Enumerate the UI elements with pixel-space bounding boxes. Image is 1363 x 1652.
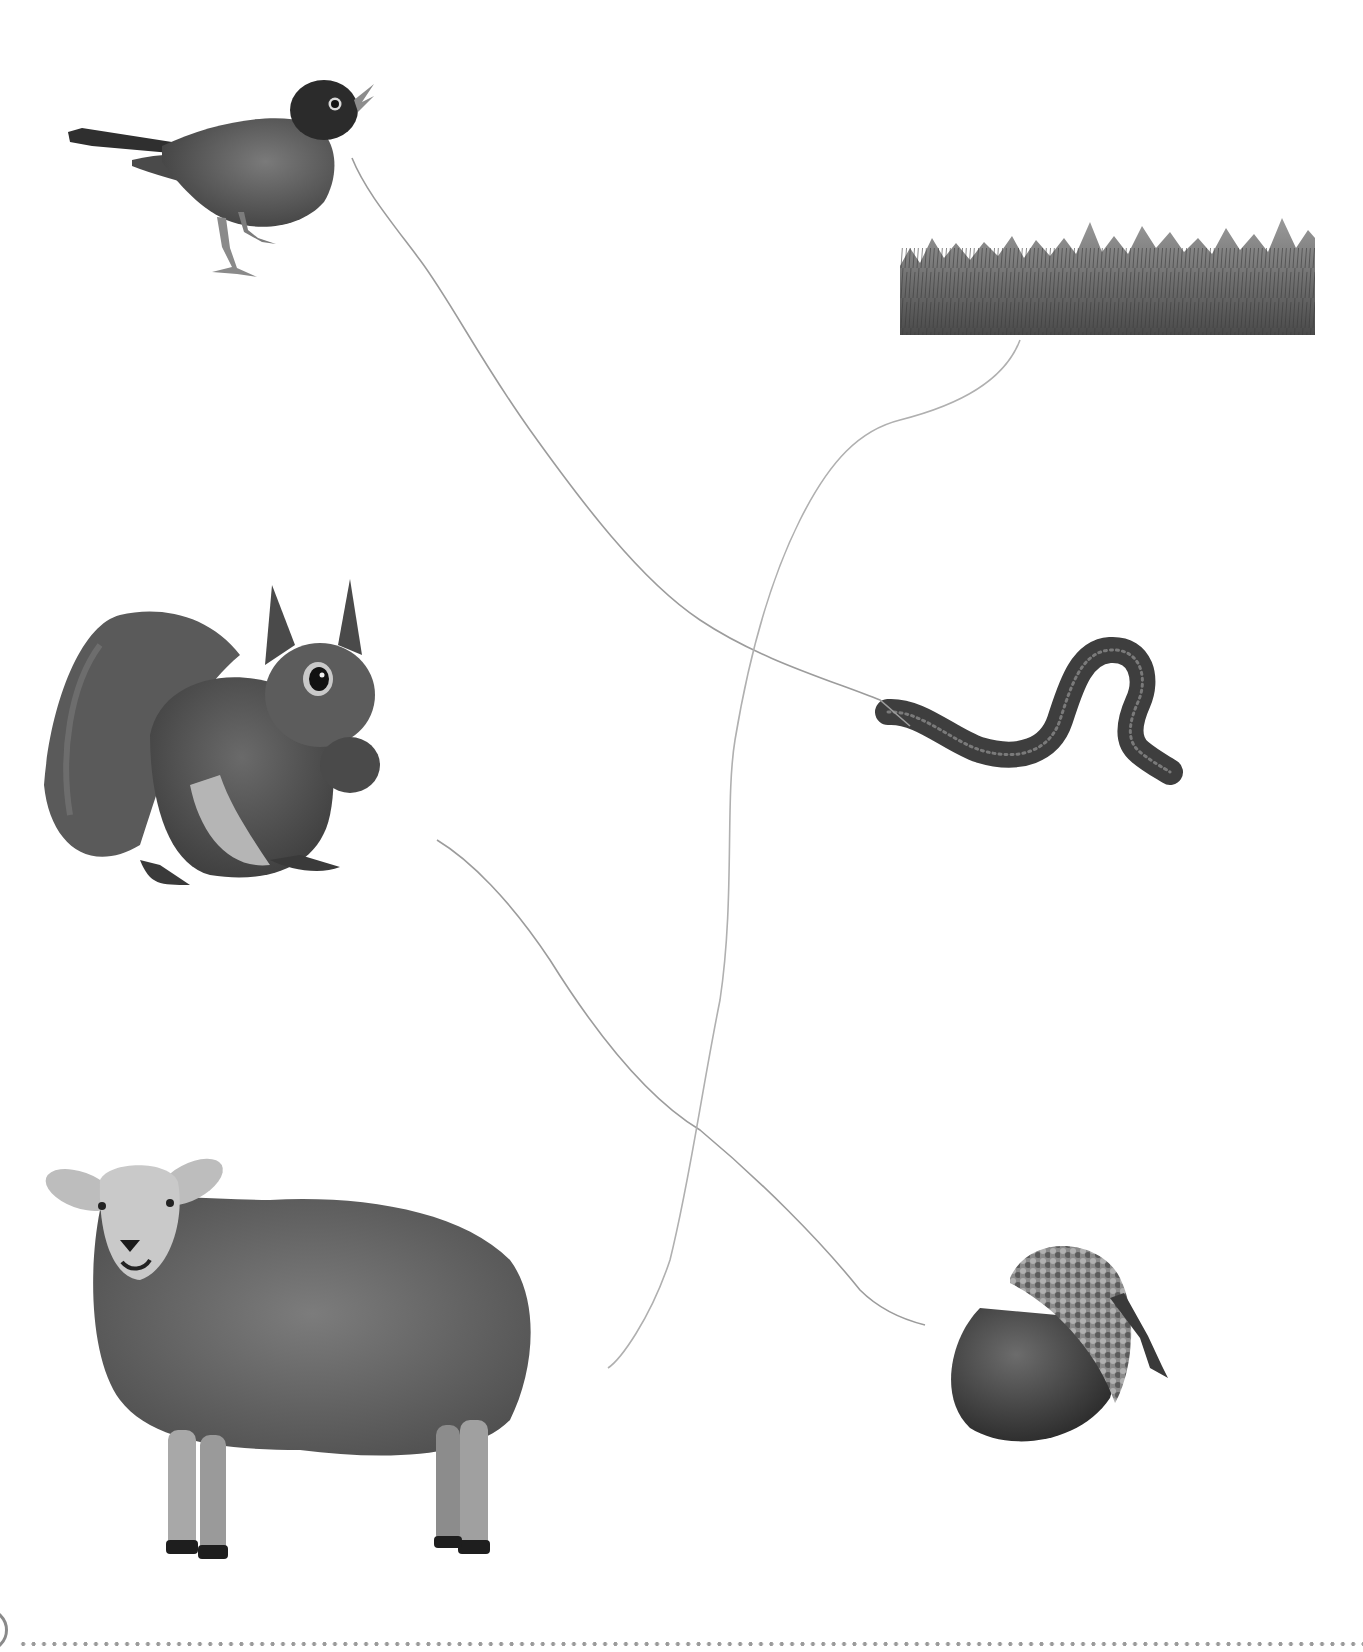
robin-icon (62, 62, 377, 287)
grass-image[interactable]: grass (900, 208, 1315, 338)
line-robin-to-worm (352, 158, 910, 726)
sheep-image[interactable]: sheep (40, 1100, 540, 1570)
worm-icon (880, 640, 1180, 785)
sheep-icon (40, 1100, 540, 1570)
page-marker-circle (0, 1608, 8, 1652)
acorn-image[interactable]: acorn (940, 1238, 1190, 1458)
matching-worksheet: robin gras (0, 0, 1363, 1652)
acorn-icon (940, 1238, 1190, 1458)
grass-icon (900, 208, 1315, 338)
squirrel-image[interactable]: squirrel (40, 585, 400, 930)
line-grass-to-sheep (608, 340, 1020, 1368)
dotted-divider (18, 1642, 1363, 1646)
squirrel-icon (40, 585, 400, 930)
worm-image[interactable]: worm (880, 640, 1180, 785)
robin-image[interactable]: robin (62, 62, 377, 287)
